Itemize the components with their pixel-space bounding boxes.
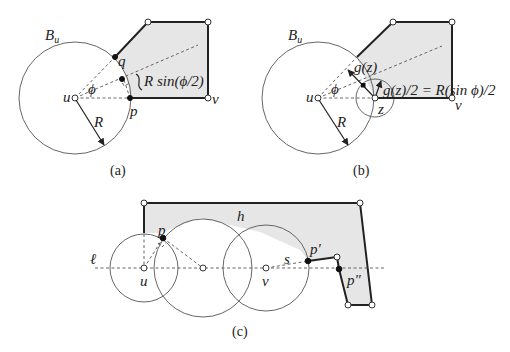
label-equation-b: g(z)/2 = R(sin ϕ)/2	[383, 82, 496, 99]
label-ell: ℓ	[90, 251, 96, 267]
label-distance-a: R sin(ϕ/2)	[143, 73, 204, 90]
vertex-bottom-right-c	[369, 302, 375, 308]
label-p-dprime: p″	[346, 272, 362, 288]
label-ball-b: Bu	[288, 27, 302, 45]
label-v-c: v	[262, 273, 269, 289]
caption-b: (b)	[353, 163, 370, 179]
label-s: s	[284, 251, 290, 267]
vertex-top-left-b	[390, 19, 396, 25]
label-r-a: R	[93, 114, 103, 130]
label-p-a: p	[129, 103, 138, 119]
label-u-b: u	[306, 89, 314, 105]
label-p-prime: p′	[309, 241, 322, 257]
vertex-v-c	[263, 265, 269, 271]
caption-c: (c)	[232, 324, 248, 340]
panel-a: Bu q p u v ϕ R R sin(ϕ/2) (a)	[19, 19, 219, 179]
vertex-u-c	[141, 265, 147, 271]
label-u-a: u	[63, 89, 71, 105]
label-p-c: p	[157, 222, 166, 238]
vertex-u-a	[72, 95, 78, 101]
vertex-top-right-c	[357, 200, 363, 206]
point-midpoint-a	[120, 77, 125, 82]
panel-b: Bu g(z) ϕ u z v R g(z)/2 = R(sin ϕ)/2 (b…	[262, 19, 496, 179]
label-v-b: v	[455, 97, 462, 113]
label-q: q	[118, 53, 126, 69]
panel-c: h p ℓ u v s p′ p″ (c)	[90, 200, 385, 340]
point-p-dprime	[336, 266, 342, 272]
vertex-bottom-left-c	[345, 302, 351, 308]
label-phi-b: ϕ	[331, 81, 339, 97]
label-gz: g(z)	[354, 59, 377, 76]
segment-p-center	[163, 238, 203, 268]
label-v-a: v	[212, 91, 219, 107]
point-q	[113, 55, 118, 60]
figure-canvas: Bu q p u v ϕ R R sin(ϕ/2) (a) Bu g(z) ϕ …	[0, 0, 510, 352]
point-p-a	[128, 96, 133, 101]
vertex-notch-c	[334, 254, 340, 260]
segment-u-p	[144, 238, 163, 268]
vertex-top-right-a	[205, 19, 211, 25]
vertex-v-a	[205, 95, 211, 101]
vertex-top-right-b	[449, 19, 455, 25]
label-ball-a: Bu	[45, 27, 59, 45]
point-p-prime	[305, 258, 311, 264]
vertex-middle-c	[200, 265, 206, 271]
label-z: z	[377, 101, 384, 117]
caption-a: (a)	[110, 163, 126, 179]
vertex-top-left-a	[145, 19, 151, 25]
label-phi-a: ϕ	[88, 81, 96, 97]
label-r-b: R	[336, 114, 346, 130]
label-h: h	[237, 208, 245, 224]
label-u-c: u	[140, 273, 148, 289]
point-square-b	[361, 83, 366, 88]
vertex-top-left-c	[141, 200, 147, 206]
vertex-u-b	[315, 95, 321, 101]
